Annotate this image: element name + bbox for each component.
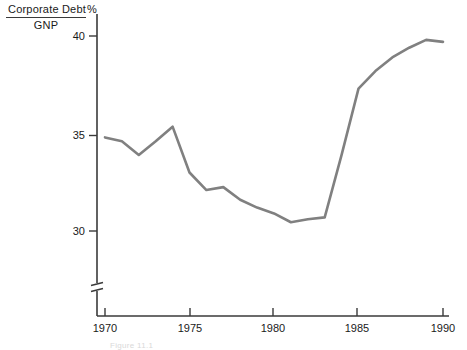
y-axis-title-numerator: Corporate Debt [6, 3, 86, 18]
figure-caption: Figure 11.1 [110, 341, 153, 350]
y-tick-label-30: 30 [57, 225, 85, 237]
y-axis-title: Corporate Debt GNP [6, 3, 86, 32]
chart-canvas [0, 0, 467, 350]
data-line-corporate-debt-gnp [105, 40, 443, 222]
chart-figure: Corporate Debt GNP % 40 35 30 1970 1975 … [0, 0, 467, 350]
x-tick-label-1990: 1990 [421, 322, 465, 334]
y-axis-unit-label: % [87, 3, 97, 15]
y-tick-label-40: 40 [57, 30, 85, 42]
x-tick-label-1985: 1985 [335, 322, 379, 334]
y-tick-label-35: 35 [57, 129, 85, 141]
x-tick-label-1980: 1980 [251, 322, 295, 334]
x-tick-label-1970: 1970 [83, 322, 127, 334]
x-tick-label-1975: 1975 [168, 322, 212, 334]
